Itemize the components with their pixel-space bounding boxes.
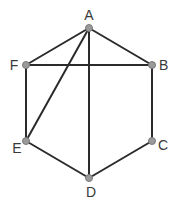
node-label-b: B [159, 57, 168, 73]
node-c [149, 138, 156, 145]
edge-a-b [89, 28, 152, 65]
edge-d-c [89, 141, 152, 178]
graph-canvas: ABCDEF [0, 0, 176, 208]
node-label-f: F [10, 57, 19, 73]
node-label-e: E [12, 140, 21, 156]
node-e [23, 138, 30, 145]
edge-e-d [26, 141, 89, 178]
graph-diagram: ABCDEF [0, 0, 176, 208]
node-d [86, 175, 93, 182]
node-a [86, 25, 93, 32]
node-label-c: C [158, 137, 168, 153]
edges-group [26, 28, 152, 178]
edge-a-e [26, 28, 89, 141]
node-label-d: D [86, 184, 96, 200]
node-label-a: A [84, 7, 94, 23]
node-b [149, 62, 156, 69]
node-f [23, 62, 30, 69]
